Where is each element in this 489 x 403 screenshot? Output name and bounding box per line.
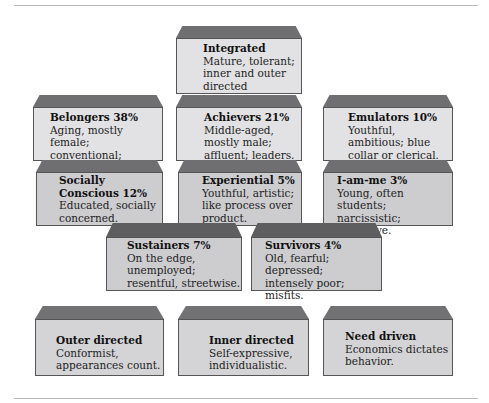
segment-desc: Mature, tolerant;	[203, 55, 301, 68]
box-front: Integrated Mature, tolerant; inner and o…	[176, 38, 302, 94]
box-front: Sustainers 7% On the edge, unemployed; r…	[106, 237, 242, 291]
box-front: Survivors 4% Old, fearful; depressed; in…	[251, 237, 382, 291]
legend-outer-directed: Outer directed Conformist, appearances c…	[35, 306, 164, 376]
segment-title: Emulators 10%	[348, 111, 452, 124]
box-emulators: Emulators 10% Youthful, ambitious; blue …	[323, 95, 453, 161]
legend-desc: individualistic.	[209, 359, 308, 372]
box-front: Need driven Economics dictates behavior.	[323, 319, 453, 376]
box-sustainers: Sustainers 7% On the edge, unemployed; r…	[106, 223, 242, 291]
box-top-face	[35, 306, 164, 319]
box-top-face	[178, 306, 309, 319]
segment-desc: Youthful,	[348, 124, 452, 137]
box-belongers: Belongers 38% Aging, mostly female; conv…	[33, 95, 163, 161]
segment-desc: mostly male;	[204, 136, 301, 149]
segment-desc: Young, often students;	[337, 187, 452, 212]
box-front: Belongers 38% Aging, mostly female; conv…	[33, 107, 163, 161]
legend-desc: Economics dictates	[345, 343, 452, 356]
legend-desc: appearances count.	[56, 359, 163, 372]
bottom-rule	[14, 398, 478, 399]
box-integrated: Integrated Mature, tolerant; inner and o…	[176, 26, 302, 94]
segment-desc: ambitious; blue	[348, 136, 452, 149]
segment-desc: Educated, socially	[59, 199, 162, 212]
segment-desc: Aging, mostly	[50, 124, 162, 137]
segment-title: I-am-me 3%	[337, 174, 452, 187]
segment-desc: Youthful, artistic;	[202, 187, 301, 200]
segment-desc: resentful, streetwise.	[127, 277, 241, 290]
legend-desc: Self-expressive,	[209, 347, 308, 360]
legend-need-driven: Need driven Economics dictates behavior.	[323, 306, 453, 376]
segment-desc: misfits.	[265, 289, 381, 302]
box-front: Experiential 5% Youthful, artistic; like…	[178, 172, 302, 226]
legend-title: Outer directed	[56, 334, 163, 347]
segment-desc: unemployed;	[127, 264, 241, 277]
box-top-face	[323, 160, 453, 172]
segment-desc: intensely poor;	[265, 277, 381, 290]
box-top-face	[36, 160, 163, 172]
box-achievers: Achievers 21% Middle-aged, mostly male; …	[176, 95, 302, 161]
segment-desc: female; conventional;	[50, 136, 162, 161]
segment-title: Survivors 4%	[265, 239, 381, 252]
box-top-face	[323, 95, 453, 107]
box-experiential: Experiential 5% Youthful, artistic; like…	[178, 160, 302, 226]
top-rule	[14, 5, 478, 6]
legend-inner-directed: Inner directed Self-expressive, individu…	[178, 306, 309, 376]
legend-desc: Conformist,	[56, 347, 163, 360]
segment-desc: inner and outer	[203, 67, 301, 80]
segment-title: Integrated	[203, 42, 301, 55]
box-top-face	[176, 26, 302, 38]
box-top-face	[323, 306, 453, 319]
box-top-face	[251, 223, 382, 237]
segment-desc: Old, fearful; depressed;	[265, 252, 381, 277]
segment-title: Socially	[59, 174, 162, 187]
segment-title: Belongers 38%	[50, 111, 162, 124]
segment-title: Experiential 5%	[202, 174, 301, 187]
box-front: Emulators 10% Youthful, ambitious; blue …	[323, 107, 453, 161]
box-front: Inner directed Self-expressive, individu…	[178, 319, 309, 376]
legend-title: Inner directed	[209, 334, 308, 347]
legend-desc: behavior.	[345, 355, 452, 368]
box-top-face	[176, 95, 302, 107]
box-front: I-am-me 3% Young, often students; narcis…	[323, 172, 453, 226]
segment-desc: On the edge,	[127, 252, 241, 265]
box-top-face	[106, 223, 242, 237]
box-survivors: Survivors 4% Old, fearful; depressed; in…	[251, 223, 382, 291]
segment-desc: directed	[203, 80, 301, 93]
segment-title: Conscious 12%	[59, 187, 162, 200]
box-front: Socially Conscious 12% Educated, sociall…	[36, 172, 163, 226]
segment-title: Achievers 21%	[204, 111, 301, 124]
box-front: Achievers 21% Middle-aged, mostly male; …	[176, 107, 302, 161]
box-top-face	[178, 160, 302, 172]
box-i-am-me: I-am-me 3% Young, often students; narcis…	[323, 160, 453, 226]
box-socially-conscious: Socially Conscious 12% Educated, sociall…	[36, 160, 163, 226]
segment-desc: Middle-aged,	[204, 124, 301, 137]
box-top-face	[33, 95, 163, 107]
segment-title: Sustainers 7%	[127, 239, 241, 252]
box-front: Outer directed Conformist, appearances c…	[35, 319, 164, 376]
legend-title: Need driven	[345, 330, 452, 343]
segment-desc: like process over	[202, 199, 301, 212]
